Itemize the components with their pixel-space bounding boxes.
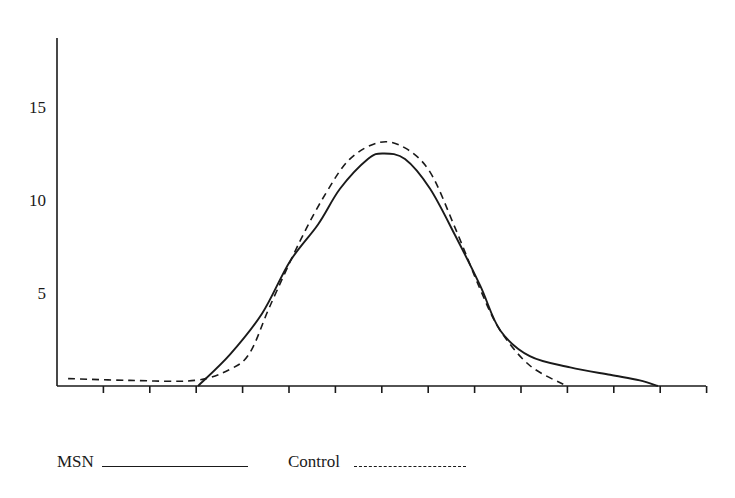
legend-item-msn: MSN (57, 452, 248, 472)
axes: 51015 (29, 38, 707, 393)
line-chart: 51015 (0, 0, 735, 440)
y-tick-label: 15 (29, 98, 46, 117)
x-ticks (103, 386, 706, 393)
solid-line-swatch-icon (102, 466, 248, 467)
series-group (68, 142, 658, 386)
series-line-control (68, 142, 567, 386)
legend-label-control: Control (288, 452, 340, 472)
legend-item-control: Control (288, 452, 466, 472)
dashed-line-swatch-icon (354, 466, 466, 467)
series-line-msn (198, 153, 658, 386)
y-tick-labels: 51015 (29, 98, 46, 303)
legend: MSN Control (0, 450, 735, 480)
y-tick-label: 5 (38, 284, 47, 303)
y-tick-label: 10 (29, 191, 46, 210)
legend-label-msn: MSN (57, 452, 94, 472)
